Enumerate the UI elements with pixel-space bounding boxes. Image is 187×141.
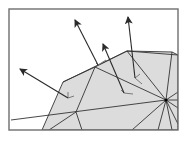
mesh-normals-diagram — [0, 0, 187, 141]
hub-vertex — [164, 98, 167, 101]
diagram-canvas — [0, 0, 187, 141]
